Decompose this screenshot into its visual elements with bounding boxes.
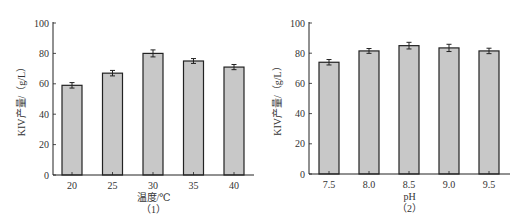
y-tick-label: 20 [295,138,305,149]
y-tick-label: 0 [300,169,305,180]
x-tick-label: 9.0 [443,179,456,190]
bar-8.0 [359,49,379,174]
bar-20 [62,83,82,175]
x-tick-label: 20 [67,180,77,191]
y-axis-title: KIV产量/（g/L） [15,62,27,136]
y-tick-label: 0 [44,170,49,181]
x-tick-label: 35 [189,180,199,191]
x-tick-label: 25 [108,180,118,191]
y-tick-label: 100 [34,18,49,29]
y-tick-label: 80 [295,48,305,59]
ph-chart: 7.58.08.59.09.5020406080100pH（2）KIV产量/（g… [261,0,522,223]
x-tick-label: 40 [229,180,239,191]
y-tick-label: 100 [290,18,305,29]
bar-9.0 [439,44,459,174]
y-tick-label: 40 [295,108,305,119]
x-tick-label: 8.0 [363,179,376,190]
bar-25 [103,70,123,175]
bar-7.5 [319,60,339,174]
temperature-chart: 2025303540020406080100温度/℃（1）KIV产量/（g/L） [0,0,261,223]
temperature-bar-chart-svg: 2025303540020406080100温度/℃（1）KIV产量/（g/L） [0,0,261,223]
x-tick-label: 8.5 [403,179,416,190]
ph-bar-chart-svg: 7.58.08.59.09.5020406080100pH（2）KIV产量/（g… [261,0,522,223]
x-axis-title: 温度/℃ [137,191,171,203]
bar-9.5 [479,48,499,174]
bar-30 [143,50,163,175]
y-tick-label: 40 [39,109,49,120]
y-tick-label: 60 [295,78,305,89]
x-tick-label: 9.5 [483,179,496,190]
chart-caption: （2） [397,203,422,214]
x-tick-label: 30 [148,180,158,191]
y-tick-label: 80 [39,48,49,59]
chart-caption: （1） [141,204,166,215]
y-tick-label: 60 [39,78,49,89]
bar-35 [184,59,204,175]
y-axis-title: KIV产量/（g/L） [271,61,283,135]
x-axis-title: pH [403,191,415,202]
bar-40 [224,64,244,175]
bar-8.5 [399,42,419,174]
y-tick-label: 20 [39,139,49,150]
x-tick-label: 7.5 [323,179,336,190]
